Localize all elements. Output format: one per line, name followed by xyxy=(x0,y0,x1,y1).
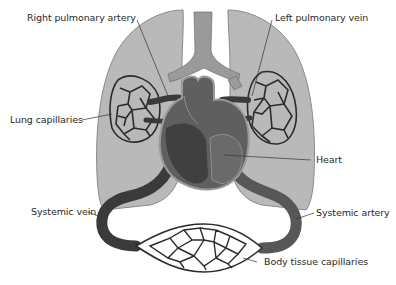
circulation-diagram: Right pulmonary artery Left pulmonary ve… xyxy=(0,0,396,285)
label-systemic-artery: Systemic artery xyxy=(316,208,390,218)
label-body-tissue-capillaries: Body tissue capillaries xyxy=(264,257,368,267)
label-heart: Heart xyxy=(316,155,342,165)
label-lung-capillaries: Lung capillaries xyxy=(10,115,83,125)
label-left-pulmonary-vein: Left pulmonary vein xyxy=(275,13,368,23)
body-tissue-capillaries xyxy=(136,224,262,272)
label-systemic-vein: Systemic vein xyxy=(31,207,96,217)
label-right-pulmonary-artery: Right pulmonary artery xyxy=(27,13,136,23)
diagram-artwork xyxy=(0,0,396,285)
